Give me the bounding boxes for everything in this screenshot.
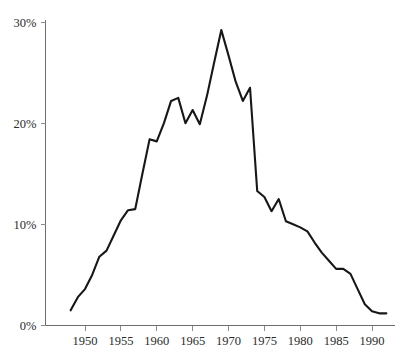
line-chart: 0%10%20%30% 1950195519601965197019751980…	[0, 0, 404, 361]
x-tick-label: 1990	[360, 334, 385, 348]
data-line-series-0	[71, 30, 387, 313]
x-tick-label: 1955	[108, 334, 133, 348]
x-tick-label-group: 195019551960196519701975198019851990	[73, 334, 385, 348]
x-tick-label: 1965	[180, 334, 205, 348]
x-tick-label: 1975	[252, 334, 277, 348]
x-tick-label: 1970	[216, 334, 241, 348]
y-tick-label: 0%	[20, 319, 37, 333]
y-tick-label: 10%	[14, 218, 37, 232]
x-tick-label: 1980	[288, 334, 313, 348]
x-tick-label: 1985	[324, 334, 349, 348]
chart-container: 0%10%20%30% 1950195519601965197019751980…	[0, 0, 404, 361]
y-axis: 0%10%20%30%	[14, 16, 46, 334]
y-tick-group	[41, 22, 46, 326]
x-tick-group	[85, 326, 372, 331]
y-tick-label: 20%	[14, 117, 37, 131]
x-tick-label: 1950	[73, 334, 98, 348]
y-tick-label: 30%	[14, 16, 37, 30]
data-series-group	[71, 30, 387, 313]
x-tick-label: 1960	[144, 334, 169, 348]
y-tick-label-group: 0%10%20%30%	[14, 16, 37, 334]
x-axis: 195019551960196519701975198019851990	[46, 326, 396, 348]
